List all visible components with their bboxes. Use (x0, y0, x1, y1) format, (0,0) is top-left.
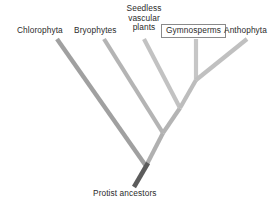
taxon-label-gymnosperms-text: Gymnosperms (166, 25, 221, 35)
taxon-label-bryophytes-text: Bryophytes (74, 25, 117, 35)
branch-chlorophyta (57, 39, 146, 166)
taxon-label-anthophyta: Anthophyta (224, 26, 267, 36)
taxon-label-anthophyta-text: Anthophyta (224, 25, 267, 35)
root-label-protist-ancestors: Protist ancestors (93, 188, 157, 198)
branch-lines (57, 39, 247, 187)
root-stem (134, 163, 148, 187)
backbone-segment-root-to-node2 (146, 133, 163, 166)
backbone-segment-node3-to-node4 (180, 80, 196, 108)
taxon-label-seedless-vascular-plants-text: Seedless vascular plants (127, 3, 162, 32)
branch-seedless-vascular-plants (144, 39, 180, 108)
cladogram-figure: Chlorophyta Bryophytes Seedless vascular… (0, 0, 276, 205)
branch-anthophyta (196, 39, 247, 80)
backbone-segment-node2-to-node3 (163, 108, 180, 133)
root-label-text: Protist ancestors (93, 188, 157, 198)
taxon-label-bryophytes: Bryophytes (74, 26, 117, 36)
taxon-label-chlorophyta-text: Chlorophyta (17, 25, 63, 35)
taxon-label-chlorophyta: Chlorophyta (17, 26, 63, 36)
taxon-label-gymnosperms[interactable]: Gymnosperms (161, 24, 226, 38)
